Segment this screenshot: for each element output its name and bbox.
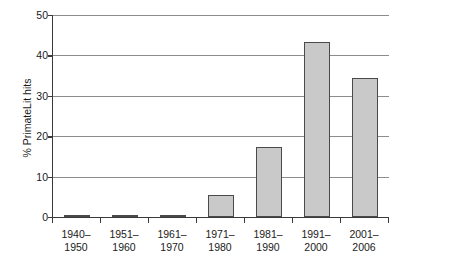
x-axis-category-label-line: 1951– [100,228,148,241]
x-axis-category-label-line: 2000 [292,241,340,254]
bar-slot [149,15,197,217]
y-axis-tick-label: 0 [22,212,48,222]
x-axis-category-label-line: 1970 [148,241,196,254]
bar-slot [197,15,245,217]
x-axis-tick-mark [100,217,101,223]
x-axis-category-label-line: 1980 [196,241,244,254]
bar-chart-figure: % PrimateLit hits 01020304050 1940–19501… [0,0,449,266]
x-axis-category-label: 1971–1980 [196,228,244,262]
bar-slot [245,15,293,217]
x-axis-category-label-line: 2006 [340,241,388,254]
x-axis-category-label: 1961–1970 [148,228,196,262]
x-axis-category-label: 1940–1950 [52,228,100,262]
y-axis-tick-label: 40 [22,50,48,60]
y-axis-tick-label: 20 [22,131,48,141]
bar[interactable] [256,147,283,217]
x-axis-category-label-line: 1940– [52,228,100,241]
x-axis-tick-mark [340,217,341,223]
x-axis-category-label: 1991–2000 [292,228,340,262]
x-axis-tick-labels: 1940–19501951–19601961–19701971–19801981… [52,228,388,262]
x-axis-tick-marks [52,217,388,223]
x-axis-category-label-line: 1990 [244,241,292,254]
y-axis-tick-label: 50 [22,10,48,20]
plot-area [52,15,389,217]
x-axis-category-label-line: 1961– [148,228,196,241]
x-axis-tick-mark [292,217,293,223]
x-axis-tick-mark [52,217,53,223]
x-axis-tick-mark [196,217,197,223]
x-axis-category-label-line: 1960 [100,241,148,254]
x-axis-tick-mark [388,217,389,223]
bar-series [53,15,389,217]
bar-slot [101,15,149,217]
y-axis-tick-label: 10 [22,172,48,182]
y-axis-tick-labels: 01020304050 [22,0,48,266]
x-axis-category-label: 1981–1990 [244,228,292,262]
bar-slot [341,15,389,217]
bar-slot [293,15,341,217]
x-axis-category-label: 1951–1960 [100,228,148,262]
bar[interactable] [352,78,379,217]
y-axis-tick-label: 30 [22,91,48,101]
bar[interactable] [304,42,331,217]
x-axis-category-label-line: 1950 [52,241,100,254]
bar[interactable] [208,195,235,217]
bar-slot [53,15,101,217]
x-axis-category-label-line: 1981– [244,228,292,241]
x-axis-tick-mark [148,217,149,223]
x-axis-category-label-line: 1971– [196,228,244,241]
x-axis-category-label-line: 1991– [292,228,340,241]
x-axis-tick-mark [244,217,245,223]
x-axis-category-label: 2001–2006 [340,228,388,262]
x-axis-category-label-line: 2001– [340,228,388,241]
